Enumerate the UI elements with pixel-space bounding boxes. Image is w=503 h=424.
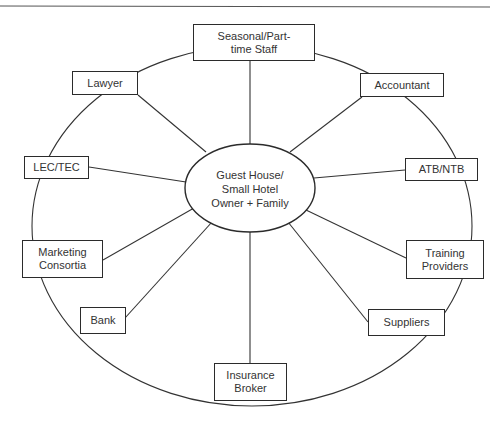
node-label: Accountant: [374, 79, 429, 92]
node-suppliers: Suppliers: [368, 309, 445, 336]
node-label: Lawyer: [87, 77, 122, 90]
node-atb-ntb: ATB/NTB: [405, 158, 478, 181]
node-marketing-consortia: Marketing Consortia: [22, 240, 103, 278]
node-lec-tec: LEC/TEC: [24, 156, 89, 179]
node-lawyer: Lawyer: [72, 71, 138, 95]
node-insurance-broker: Insurance Broker: [214, 363, 287, 401]
center-node-label: Guest House/ Small Hotel Owner + Family: [184, 162, 316, 216]
node-label: Marketing Consortia: [38, 246, 86, 272]
node-label: Suppliers: [384, 316, 430, 329]
node-label: ATB/NTB: [419, 163, 465, 176]
node-label: Seasonal/Part- time Staff: [218, 30, 291, 56]
node-label: Bank: [90, 314, 115, 327]
node-accountant: Accountant: [360, 73, 444, 97]
node-label: Insurance Broker: [226, 369, 274, 395]
node-seasonal-staff: Seasonal/Part- time Staff: [193, 24, 315, 61]
node-label: LEC/TEC: [33, 161, 79, 174]
node-bank: Bank: [80, 307, 126, 334]
node-label: Training Providers: [422, 247, 468, 273]
top-rule: [0, 6, 490, 7]
node-training-providers: Training Providers: [406, 240, 484, 279]
